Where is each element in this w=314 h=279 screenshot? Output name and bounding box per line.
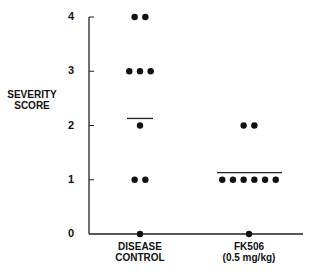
data-points	[126, 14, 279, 237]
mean-lines	[127, 118, 282, 172]
category-label-line2: CONTROL	[95, 252, 185, 263]
y-axis-label-line1: SEVERITY	[2, 89, 62, 100]
data-point	[219, 177, 225, 183]
data-point	[251, 177, 257, 183]
y-tick-label: 2	[60, 119, 74, 131]
data-point	[137, 231, 143, 237]
y-ticks	[89, 17, 94, 180]
data-point	[240, 122, 246, 128]
data-point	[126, 68, 132, 74]
y-tick-label: 3	[60, 64, 74, 76]
chart-plot-area	[0, 0, 314, 279]
data-point	[240, 177, 246, 183]
y-tick-label: 0	[60, 227, 74, 239]
data-point	[131, 177, 137, 183]
y-axis-label-line2: SCORE	[2, 100, 62, 111]
data-point	[251, 122, 257, 128]
category-label-fk506: FK506 (0.5 mg/kg)	[204, 241, 294, 263]
category-label-line1: DISEASE	[95, 241, 185, 252]
data-point	[142, 177, 148, 183]
data-point	[142, 14, 148, 20]
data-point	[262, 177, 268, 183]
category-label-line1: FK506	[204, 241, 294, 252]
data-point	[131, 14, 137, 20]
data-point	[148, 68, 154, 74]
category-label-line2: (0.5 mg/kg)	[204, 252, 294, 263]
data-point	[273, 177, 279, 183]
y-tick-label: 4	[60, 10, 74, 22]
y-tick-label: 1	[60, 173, 74, 185]
data-point	[137, 122, 143, 128]
data-point	[230, 177, 236, 183]
category-label-disease-control: DISEASE CONTROL	[95, 241, 185, 263]
data-point	[246, 231, 252, 237]
y-axis-label: SEVERITY SCORE	[2, 89, 62, 111]
data-point	[137, 68, 143, 74]
